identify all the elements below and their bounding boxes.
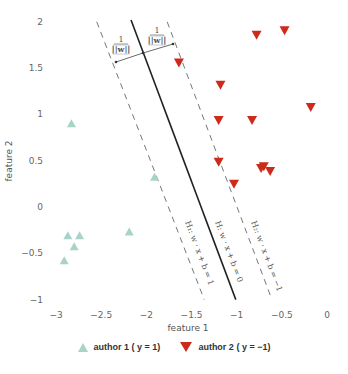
x-tick-label: −2.5 [90,310,112,320]
author1-point [70,242,79,250]
author2-point [252,31,262,40]
author1-point [63,231,72,239]
arrow-end-icon [172,43,175,46]
author2-point [214,116,224,125]
margin-fraction-right-den: ||w|| [148,35,167,45]
margin-arrow-left [116,53,143,62]
y-tick-label: −1 [30,295,43,305]
y-tick-label: 2 [37,17,43,27]
margin-fraction-left-num: 1 [118,35,123,44]
x-axis-label: feature 1 [167,323,208,333]
y-tick-label: 0.5 [29,156,43,166]
x-tick-label: −1 [230,310,243,320]
legend-item-author2: author 2 ( y = −1) [180,342,270,352]
y-axis-label: feature 2 [4,140,14,181]
plot-area: 21.510.50−0.5−1−3−2.5−2−1.5−1−0.50featur… [0,0,348,340]
author2-point [214,158,224,167]
legend: author 1 ( y = 1) author 2 ( y = −1) [0,342,348,352]
h1-label: H₁: w · x + b = 1 [183,220,216,287]
author2-point [215,81,225,90]
x-tick-label: −1.5 [181,310,203,320]
author2-point [280,26,290,35]
y-tick-label: 1 [37,109,43,119]
author2-point [265,167,275,176]
margin-fraction-left-den: ||w|| [112,44,131,54]
y-tick-label: 1.5 [29,63,43,73]
author1-point [125,228,134,236]
author2-point [247,116,257,125]
margin-arrow-right [143,44,173,53]
author1-point [67,119,76,127]
author1-point [150,173,159,181]
x-tick-label: −3 [49,310,62,320]
legend-label-author1: author 1 ( y = 1) [94,342,161,352]
y-tick-label: 0 [37,202,43,212]
svm-chart: 21.510.50−0.5−1−3−2.5−2−1.5−1−0.50featur… [0,0,348,374]
author1-point [60,256,69,264]
h2-label: H₂: w · x + b = −1 [249,220,284,293]
author2-point [306,103,316,112]
margin-fraction-right-num: 1 [154,26,159,35]
legend-label-author2: author 2 ( y = −1) [198,342,270,352]
y-tick-label: −0.5 [21,248,43,258]
margin-line-h1 [97,22,204,300]
legend-item-author1: author 1 ( y = 1) [78,342,161,352]
x-tick-label: 0 [324,310,330,320]
triangle-down-icon [180,342,192,352]
x-tick-label: −0.5 [271,310,293,320]
author2-point [174,59,184,68]
arrow-end-icon [115,61,118,64]
triangle-up-icon [78,343,88,352]
author2-point [229,180,239,189]
x-tick-label: −2 [140,310,153,320]
arrow-mid-icon [142,52,145,55]
author1-point [75,231,84,239]
